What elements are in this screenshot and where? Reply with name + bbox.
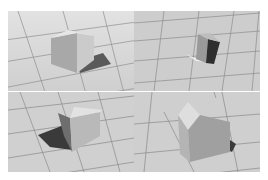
panel-top-right xyxy=(134,11,260,91)
render-box-rear xyxy=(8,92,134,172)
figure-grid xyxy=(8,11,260,172)
panel-top-left xyxy=(8,11,134,91)
render-pitched-house xyxy=(134,92,260,172)
panel-bottom-left xyxy=(8,92,134,172)
render-box-front xyxy=(8,11,134,91)
panel-bottom-right xyxy=(134,92,260,172)
render-box-topdown xyxy=(134,11,260,91)
